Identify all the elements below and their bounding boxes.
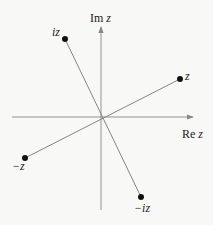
imaginary-axis-label: Im z [90,11,111,25]
label-z: z [184,69,190,83]
point-iz [62,36,68,42]
line-z-to-neg-z [25,79,180,158]
complex-plane-diagram: Im z Re z z iz −z −iz [0,0,213,225]
label-neg-iz: −iz [134,201,150,215]
line-iz-to-neg-iz [65,39,141,197]
label-iz: iz [52,25,60,39]
point-neg-iz [138,194,144,200]
label-neg-z: −z [12,159,25,173]
point-z [177,76,183,82]
real-axis-label: Re z [182,127,203,141]
